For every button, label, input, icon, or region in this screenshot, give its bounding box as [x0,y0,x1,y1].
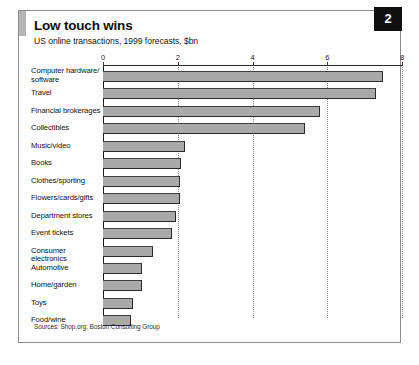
chart-row: Toys [19,298,402,315]
category-label: Clothes/sporting [31,177,103,186]
category-label: Music/video [31,142,103,151]
bar [103,158,181,169]
category-label: Home/garden [31,281,103,290]
bar [103,263,142,274]
bar [103,246,153,257]
x-tick-label: 2 [176,53,180,62]
accent-bar [19,11,26,36]
bar [103,176,180,187]
tick-mark-4 [253,62,254,66]
source-note: Sources: Shop.org; Boston Consulting Gro… [34,323,160,330]
chart-row: Home/garden [19,280,402,297]
tick-mark-0 [103,62,104,66]
bar [103,193,180,204]
plot-area: 02468 Computer hardware/ softwareTravelF… [19,53,402,321]
chart-row: Music/video [19,141,402,158]
category-label: Collectibles [31,124,103,133]
category-label: Travel [31,89,103,98]
chart-row: Financial brokerages [19,106,402,123]
bar [103,298,133,309]
bar [103,123,305,134]
tick-mark-2 [178,62,179,66]
category-label: Consumer electronics [31,247,103,264]
bar [103,228,172,239]
chart-row: Flowers/cards/gifts [19,193,402,210]
category-label: Department stores [31,212,103,221]
category-label: Automotive [31,264,103,273]
chart-title: Low touch wins [34,18,132,33]
chart-row: Automotive [19,263,402,280]
x-tick-label: 6 [325,53,329,62]
category-label: Computer hardware/ software [31,67,103,84]
bar [103,141,185,152]
bar [103,280,142,291]
category-label: Toys [31,299,103,308]
tick-mark-8 [402,62,403,66]
bar [103,88,376,99]
x-tick-label: 8 [400,53,404,62]
page-number-badge: 2 [374,7,402,31]
category-label: Flowers/cards/gifts [31,194,103,203]
chart-row: Department stores [19,211,402,228]
x-tick-label: 4 [250,53,254,62]
tick-mark-6 [327,62,328,66]
chart-row: Computer hardware/ software [19,71,402,88]
chart-subtitle: US online transactions, 1999 forecasts, … [34,36,198,46]
chart-row: Books [19,158,402,175]
chart-row: Consumer electronics [19,246,402,263]
category-label: Books [31,159,103,168]
x-tick-label: 0 [101,53,105,62]
chart-row: Event tickets [19,228,402,245]
bar [103,106,320,117]
gridline-8 [402,65,403,318]
chart-figure: 2 Low touch wins US online transactions,… [18,10,401,343]
chart-row: Collectibles [19,123,402,140]
bar [103,71,383,82]
chart-row: Clothes/sporting [19,176,402,193]
category-label: Financial brokerages [31,107,103,116]
bar [103,211,176,222]
category-label: Event tickets [31,229,103,238]
chart-row: Travel [19,88,402,105]
